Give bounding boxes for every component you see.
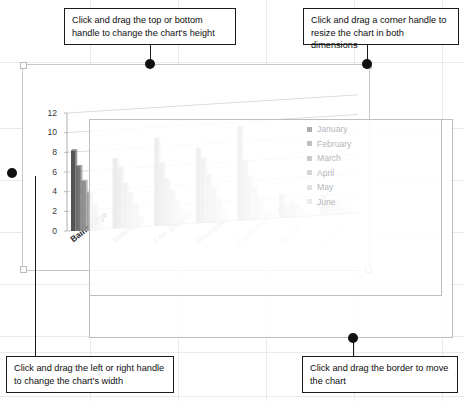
legend-item-label: May (317, 182, 333, 192)
legend-item-label: January (317, 124, 348, 134)
chart-legend-plot-outline (89, 119, 442, 296)
legend-item[interactable]: January (307, 122, 351, 136)
legend-swatch-icon (307, 185, 312, 190)
legend-item-label: April (317, 168, 334, 178)
top-middle-handle[interactable] (145, 59, 155, 69)
legend-item-label: March (317, 153, 341, 163)
legend-item-label: February (317, 139, 351, 149)
chart-legend: JanuaryFebruaryMarchAprilMayJune (307, 122, 351, 209)
legend-item[interactable]: June (307, 195, 351, 209)
legend-swatch-icon (307, 141, 312, 146)
callout-height-handle-text: Click and drag the top or bottom handle … (72, 15, 215, 38)
leader-line-width (35, 176, 36, 356)
callout-height-handle: Click and drag the top or bottom handle … (64, 8, 236, 45)
callout-width-handle: Click and drag the left or right handle … (6, 356, 174, 393)
callout-corner-handle: Click and drag a corner handle to resize… (303, 8, 459, 45)
legend-item-label: June (317, 197, 336, 207)
callout-move-border: Click and drag the border to move the ch… (302, 356, 458, 393)
legend-swatch-icon (307, 170, 312, 175)
callout-width-handle-text: Click and drag the left or right handle … (14, 363, 164, 386)
legend-item[interactable]: May (307, 180, 351, 194)
top-right-corner-handle[interactable] (362, 59, 372, 69)
legend-item[interactable]: April (307, 166, 351, 180)
callout-corner-handle-text: Click and drag a corner handle to resize… (311, 15, 446, 50)
bottom-middle-handle[interactable] (348, 333, 358, 343)
legend-swatch-icon (307, 156, 312, 161)
callout-move-border-text: Click and drag the border to move the ch… (310, 363, 448, 386)
legend-item[interactable]: February (307, 137, 351, 151)
middle-left-handle[interactable] (7, 168, 17, 178)
legend-item[interactable]: March (307, 151, 351, 165)
legend-swatch-icon (307, 199, 312, 204)
legend-swatch-icon (307, 127, 312, 132)
